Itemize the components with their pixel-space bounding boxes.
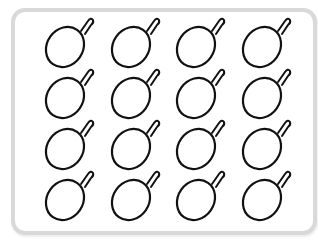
fruit-stem — [278, 19, 290, 34]
fruit-grid — [0, 0, 318, 240]
fruit-stem — [212, 172, 224, 187]
fruit-outline-icon — [38, 172, 93, 228]
fruit-outline-icon — [169, 121, 224, 177]
fruit-stem — [278, 70, 290, 85]
fruit-outline-icon — [38, 70, 93, 126]
fruit-outline-icon — [104, 70, 159, 126]
fruit-stem — [81, 70, 93, 85]
fruit-stem — [212, 70, 224, 85]
fruit-stem — [81, 172, 93, 187]
fruit-outline-icon — [235, 121, 290, 177]
fruit-stem — [212, 19, 224, 34]
fruit-stem — [147, 70, 159, 85]
fruit-outline-icon — [38, 19, 93, 75]
fruit-outline-icon — [169, 19, 224, 75]
fruit-outline-icon — [104, 172, 159, 228]
fruit-stem — [147, 19, 159, 34]
fruit-outline-icon — [104, 121, 159, 177]
fruit-outline-icon — [169, 70, 224, 126]
fruit-stem — [147, 121, 159, 136]
fruit-stem — [81, 19, 93, 34]
fruit-stem — [212, 121, 224, 136]
fruit-outline-icon — [235, 172, 290, 228]
fruit-outline-icon — [169, 172, 224, 228]
fruit-outline-icon — [38, 121, 93, 177]
fruit-outline-icon — [235, 70, 290, 126]
fruit-stem — [278, 121, 290, 136]
fruit-outline-icon — [235, 19, 290, 75]
fruit-outline-icon — [104, 19, 159, 75]
fruit-stem — [278, 172, 290, 187]
fruit-stem — [81, 121, 93, 136]
fruit-stem — [147, 172, 159, 187]
